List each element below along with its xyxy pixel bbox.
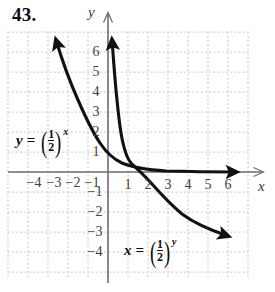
xtick-4: 4 (180, 177, 196, 193)
curve-b-lhs: x (124, 242, 132, 259)
curve-b-annotation: x = ( 1 2 ) y (124, 238, 177, 263)
curve-a-equals: = (23, 132, 40, 149)
curve-a-lhs: y (16, 132, 23, 149)
ytick-3: 3 (88, 104, 104, 120)
ytick-6: 6 (88, 44, 104, 60)
xtick-3: 3 (160, 177, 176, 193)
fraction-a: 1 2 (48, 128, 54, 153)
ytick-neg4: −4 (84, 244, 106, 260)
xtick-5: 5 (200, 177, 216, 193)
xtick-neg3: −3 (44, 175, 64, 191)
ytick-neg2: −2 (84, 204, 106, 220)
close-paren-b: ) (164, 240, 170, 264)
curve-b-exponent: y (172, 236, 176, 247)
curve-y-equals-half-pow-x (56, 40, 236, 172)
fraction-b: 1 2 (157, 238, 163, 263)
xtick-6: 6 (220, 177, 236, 193)
curve-b-equals: = (132, 242, 149, 259)
xtick-neg1: −1 (82, 175, 102, 191)
xtick-neg4: −4 (24, 175, 44, 191)
curve-a-annotation: y = ( 1 2 ) x (16, 128, 68, 153)
close-paren-a: ) (55, 130, 61, 154)
ytick-neg3: −3 (84, 224, 106, 240)
curve-a-exponent: x (63, 126, 68, 137)
xtick-1: 1 (120, 177, 136, 193)
open-paren-b: ( (150, 240, 156, 264)
ytick-2: 2 (88, 124, 104, 140)
xtick-neg2: −2 (63, 175, 83, 191)
ytick-5: 5 (88, 64, 104, 80)
ytick-1: 1 (88, 144, 104, 160)
graph-figure: 43. y x (0, 0, 275, 292)
ytick-4: 4 (88, 84, 104, 100)
curve-x-equals-half-pow-y (112, 40, 228, 236)
open-paren-a: ( (41, 130, 47, 154)
xtick-2: 2 (140, 177, 156, 193)
